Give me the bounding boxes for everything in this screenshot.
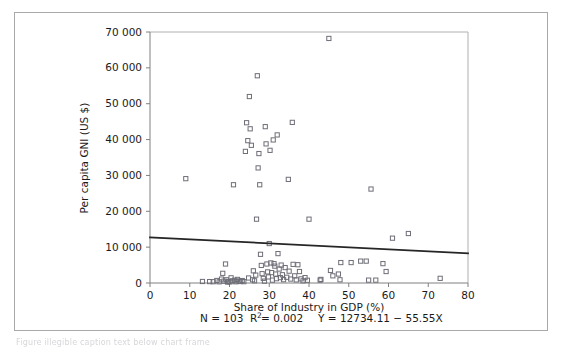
stats-n-label: N = 103 (200, 312, 243, 324)
figure-caption: Figure illegible caption text below char… (16, 338, 446, 349)
x-tick-label: 50 (342, 289, 355, 301)
x-tick-label: 20 (223, 289, 236, 301)
figure-caption-text: Figure illegible caption text below char… (16, 338, 446, 347)
data-point (223, 262, 227, 266)
data-point (286, 177, 290, 181)
data-point (271, 138, 275, 142)
data-point (264, 142, 268, 146)
y-tick-label: 10 000 (105, 241, 142, 253)
scatter-plot: 010 00020 00030 00040 00050 00060 00070 … (0, 0, 563, 356)
data-point (390, 236, 394, 240)
data-point (328, 268, 332, 272)
data-point (336, 272, 340, 276)
x-axis-ticks: 01020304050607080 (147, 283, 475, 301)
data-point (369, 187, 373, 191)
figure-container: 010 00020 00030 00040 00050 00060 00070 … (0, 0, 563, 356)
data-point (349, 260, 353, 264)
data-point (275, 133, 279, 137)
data-point (256, 166, 260, 170)
data-point (291, 262, 295, 266)
y-axis-title: Per capita GNI (US $) (78, 103, 90, 214)
data-point (260, 272, 264, 276)
x-tick-label: 30 (263, 289, 276, 301)
data-point (257, 151, 261, 155)
data-point (243, 149, 247, 153)
data-point (307, 217, 311, 221)
x-tick-label: 10 (183, 289, 196, 301)
data-point (338, 278, 342, 282)
data-point (259, 263, 263, 267)
stats-equation: Y = 12734.11 − 55.55X (317, 312, 443, 324)
data-point (276, 252, 280, 256)
data-point (258, 252, 262, 256)
x-tick-label: 80 (461, 289, 474, 301)
data-point (359, 259, 363, 263)
y-tick-label: 70 000 (105, 26, 142, 38)
data-point (374, 278, 378, 282)
data-point (364, 259, 368, 263)
data-point (331, 274, 335, 278)
y-tick-label: 40 000 (105, 133, 142, 145)
data-point (255, 74, 259, 78)
y-tick-label: 30 000 (105, 169, 142, 181)
x-tick-label: 60 (382, 289, 395, 301)
data-point (254, 273, 258, 277)
y-tick-label: 20 000 (105, 205, 142, 217)
stats-annotation: N = 103 R 2 = 0.002 Y = 12734.11 − 55.55… (200, 311, 443, 324)
y-axis-ticks: 010 00020 00030 00040 00050 00060 00070 … (105, 26, 150, 289)
data-point-group (184, 36, 443, 284)
data-point (231, 183, 235, 187)
data-point (297, 269, 301, 273)
y-tick-label: 0 (135, 277, 142, 289)
data-point (268, 148, 272, 152)
data-point (258, 183, 262, 187)
data-point (254, 217, 258, 221)
data-point (384, 269, 388, 273)
data-point (367, 278, 371, 282)
data-point (381, 262, 385, 266)
data-point (339, 260, 343, 264)
data-point (244, 121, 248, 125)
y-tick-label: 60 000 (105, 61, 142, 73)
regression-trendline (150, 237, 468, 253)
x-tick-label: 70 (422, 289, 435, 301)
data-point (406, 231, 410, 235)
data-point (184, 177, 188, 181)
data-point (251, 269, 255, 273)
data-point (247, 94, 251, 98)
data-point (261, 276, 265, 280)
stats-r2-value: = 0.002 (261, 312, 303, 324)
data-point (221, 271, 225, 275)
x-tick-label: 0 (147, 289, 154, 301)
data-point (249, 143, 253, 147)
data-point (296, 263, 300, 267)
data-point (246, 139, 250, 143)
data-point (438, 276, 442, 280)
data-point (327, 36, 331, 40)
data-point (263, 125, 267, 129)
data-point (248, 127, 252, 131)
data-point (290, 120, 294, 124)
y-tick-label: 50 000 (105, 97, 142, 109)
x-tick-label: 40 (302, 289, 315, 301)
